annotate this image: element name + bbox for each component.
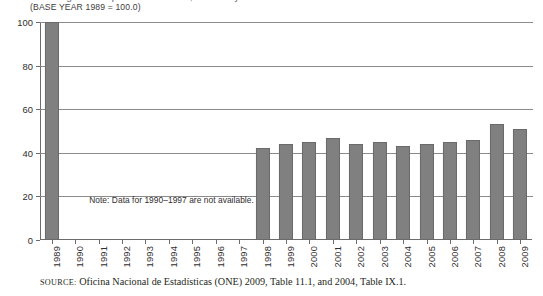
x-tick-1989 (52, 240, 53, 244)
x-tick-label-1996: 1996 (216, 246, 226, 267)
bar-2008[interactable] (490, 124, 504, 240)
bar-slot-1990: 1990 (63, 22, 86, 240)
x-tick-2008 (497, 240, 498, 244)
chart-note: Note: Data for 1990–1997 are not availab… (89, 195, 254, 205)
x-tick-1990 (75, 240, 76, 244)
x-tick-1995 (192, 240, 193, 244)
x-tick-2001 (333, 240, 334, 244)
bar-2007[interactable] (466, 140, 480, 240)
x-tick-label-2005: 2005 (427, 246, 437, 267)
bar-2002[interactable] (349, 144, 363, 240)
x-tick-label-1993: 1993 (145, 246, 155, 267)
y-tick-label-40: 40 (23, 147, 33, 158)
x-tick-label-1990: 1990 (75, 246, 85, 267)
bar-1998[interactable] (256, 148, 270, 240)
x-tick-1992 (122, 240, 123, 244)
x-tick-label-2006: 2006 (450, 246, 460, 267)
bar-slot-1994: 1994 (157, 22, 180, 240)
x-tick-label-2002: 2002 (356, 246, 366, 267)
y-tick-0 (36, 240, 40, 241)
bar-slot-2000: 2000 (298, 22, 321, 240)
bar-2000[interactable] (302, 142, 316, 240)
bar-2004[interactable] (396, 146, 410, 240)
x-tick-2006 (450, 240, 451, 244)
bar-slot-1992: 1992 (110, 22, 133, 240)
x-tick-2002 (356, 240, 357, 244)
bar-slot-1991: 1991 (87, 22, 110, 240)
source-line: SOURCE: Oficina Nacional de Estadísticas… (40, 276, 406, 287)
x-tick-label-1997: 1997 (239, 246, 249, 267)
x-tick-label-1992: 1992 (122, 246, 132, 267)
x-tick-label-1991: 1991 (99, 246, 109, 267)
bar-series: 1989199019911992199319941995199619971998… (40, 22, 532, 240)
bar-slot-1989: 1989 (40, 22, 63, 240)
x-tick-2007 (473, 240, 474, 244)
bar-slot-1996: 1996 (204, 22, 227, 240)
bar-slot-1998: 1998 (251, 22, 274, 240)
bar-slot-2009: 2009 (509, 22, 532, 240)
bar-slot-1997: 1997 (227, 22, 250, 240)
x-tick-label-2007: 2007 (473, 246, 483, 267)
bar-slot-1995: 1995 (181, 22, 204, 240)
bar-slot-2003: 2003 (368, 22, 391, 240)
y-tick-label-80: 80 (23, 60, 33, 71)
x-tick-label-1998: 1998 (263, 246, 273, 267)
x-tick-2000 (309, 240, 310, 244)
bar-slot-2002: 2002 (345, 22, 368, 240)
x-tick-label-1994: 1994 (169, 246, 179, 267)
x-tick-2004 (403, 240, 404, 244)
bar-1999[interactable] (279, 144, 293, 240)
x-tick-2005 (427, 240, 428, 244)
x-tick-label-1995: 1995 (192, 246, 202, 267)
x-tick-1997 (239, 240, 240, 244)
figure-subtitle: (BASE YEAR 1989 = 100.0) (30, 2, 141, 12)
bar-slot-2004: 2004 (391, 22, 414, 240)
y-tick-label-20: 20 (23, 191, 33, 202)
bar-slot-2006: 2006 (438, 22, 461, 240)
x-tick-label-2004: 2004 (403, 246, 413, 267)
y-tick-label-100: 100 (17, 17, 33, 28)
bar-chart-plot: 020406080100 198919901991199219931994199… (40, 22, 532, 240)
source-label: SOURCE: (40, 278, 77, 287)
bar-slot-2001: 2001 (321, 22, 344, 240)
bar-2003[interactable] (373, 142, 387, 240)
bar-slot-1999: 1999 (274, 22, 297, 240)
x-tick-2009 (520, 240, 521, 244)
bar-slot-1993: 1993 (134, 22, 157, 240)
x-tick-label-1999: 1999 (286, 246, 296, 267)
x-tick-label-1989: 1989 (52, 246, 62, 267)
x-tick-1991 (99, 240, 100, 244)
x-tick-label-2008: 2008 (497, 246, 507, 267)
x-tick-2003 (380, 240, 381, 244)
x-tick-1993 (145, 240, 146, 244)
bar-1989[interactable] (45, 22, 59, 240)
x-tick-1994 (169, 240, 170, 244)
x-tick-label-2000: 2000 (309, 246, 319, 267)
x-tick-1996 (216, 240, 217, 244)
bar-2006[interactable] (443, 142, 457, 240)
source-citation: Oficina Nacional de Estadísticas (ONE) 2… (79, 276, 406, 287)
x-tick-1999 (286, 240, 287, 244)
bar-slot-2005: 2005 (415, 22, 438, 240)
x-tick-label-2003: 2003 (380, 246, 390, 267)
x-tick-label-2009: 2009 (520, 246, 530, 267)
bar-2005[interactable] (420, 144, 434, 240)
bar-slot-2007: 2007 (462, 22, 485, 240)
bar-2009[interactable] (513, 129, 527, 240)
y-tick-label-60: 60 (23, 104, 33, 115)
bar-2001[interactable] (326, 138, 340, 240)
y-tick-label-0: 0 (28, 235, 33, 246)
x-tick-1998 (263, 240, 264, 244)
x-tick-label-2001: 2001 (333, 246, 343, 267)
bar-slot-2008: 2008 (485, 22, 508, 240)
